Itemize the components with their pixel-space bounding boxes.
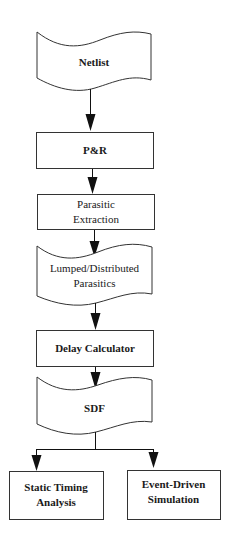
sta-label-line-2: Analysis bbox=[9, 495, 103, 510]
arrowhead bbox=[32, 455, 42, 471]
simulation-label-line-2: Simulation bbox=[127, 492, 220, 507]
extraction-label-line-1: Parasitic bbox=[37, 197, 155, 212]
pr-label: P&R bbox=[36, 143, 154, 158]
parasitics-label-line-2: Parasitics bbox=[37, 276, 152, 291]
parasitics-label-line-1: Lumped/Distributed bbox=[37, 261, 152, 276]
delay-calculator-label: Delay Calculator bbox=[36, 341, 154, 356]
parasitics-label: Lumped/Distributed Parasitics bbox=[37, 261, 152, 291]
arrowhead bbox=[88, 177, 98, 194]
extraction-label: Parasitic Extraction bbox=[37, 197, 155, 227]
extraction-label-line-2: Extraction bbox=[37, 212, 155, 227]
simulation-label: Event-Driven Simulation bbox=[127, 477, 220, 507]
sta-label: Static Timing Analysis bbox=[9, 480, 103, 510]
sdf-label: SDF bbox=[37, 401, 152, 416]
simulation-label-line-1: Event-Driven bbox=[127, 477, 220, 492]
netlist-label: Netlist bbox=[37, 55, 151, 70]
arrowhead bbox=[86, 114, 96, 131]
sta-label-line-1: Static Timing bbox=[9, 480, 103, 495]
arrowhead bbox=[91, 313, 101, 330]
arrowhead bbox=[149, 452, 159, 468]
